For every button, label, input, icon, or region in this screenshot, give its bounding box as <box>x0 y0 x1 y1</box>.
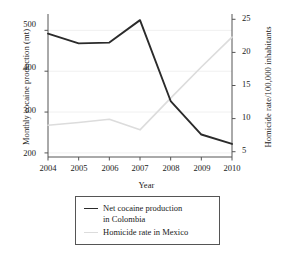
legend-swatch-cocaine <box>84 203 98 214</box>
legend-item-homicide: Homicide rate in Mexico <box>84 227 188 238</box>
legend: Net cocaine production in Colombia Homic… <box>75 196 220 245</box>
series-line-homicide-rate-mexico <box>48 37 232 130</box>
legend-label-cocaine: Net cocaine production in Colombia <box>103 203 182 224</box>
axis-ticks <box>45 19 236 160</box>
legend-swatch-homicide <box>84 227 98 238</box>
chart-figure: Monthly cocaine production (mt) Homicide… <box>0 0 293 259</box>
legend-label-homicide: Homicide rate in Mexico <box>103 227 188 238</box>
legend-item-cocaine: Net cocaine production in Colombia <box>84 203 182 224</box>
series-line-net-cocaine-production-colombia <box>48 20 232 144</box>
